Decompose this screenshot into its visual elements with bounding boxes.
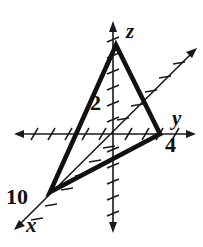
figure-canvas: z y x 2 4 10 bbox=[0, 0, 203, 247]
y-intercept-label: 4 bbox=[165, 134, 176, 156]
x-axis-ticks bbox=[31, 62, 185, 220]
plane-trace-triangle bbox=[50, 45, 160, 192]
z-axis-negative-arrow-icon bbox=[109, 222, 117, 233]
z-axis-positive-arrow-icon bbox=[109, 21, 117, 32]
x-axis-label: x bbox=[26, 215, 37, 236]
z-intercept-label: 2 bbox=[90, 92, 101, 114]
y-axis-negative-arrow-icon bbox=[14, 130, 24, 138]
y-axis-positive-arrow-icon bbox=[186, 130, 196, 138]
z-axis-label: z bbox=[126, 21, 134, 42]
x-intercept-label: 10 bbox=[6, 186, 28, 208]
y-axis-label: y bbox=[172, 108, 181, 129]
